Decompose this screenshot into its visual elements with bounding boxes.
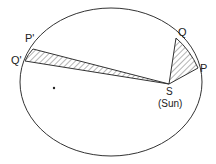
label-q: Q [178, 26, 187, 38]
sector-near [169, 38, 198, 84]
sector-far [25, 49, 169, 84]
empty-focus-dot [53, 87, 55, 89]
label-sun: (Sun) [158, 98, 182, 109]
orbit-ellipse [20, 8, 202, 156]
kepler-diagram: P' Q' Q P S (Sun) [0, 0, 216, 164]
label-p: P [200, 62, 207, 74]
label-q-prime: Q' [11, 54, 22, 66]
label-s: S [166, 86, 173, 97]
label-p-prime: P' [25, 32, 34, 44]
